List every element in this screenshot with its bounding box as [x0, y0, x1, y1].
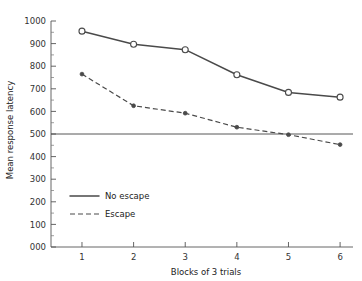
x-tick-label: 1	[79, 252, 84, 262]
x-axis-title: Blocks of 3 trials	[171, 267, 242, 277]
chart-figure: 0001002003004005006007008009001000 12345…	[0, 0, 362, 281]
chart-legend: No escapeEscape	[70, 191, 149, 219]
line-chart: 0001002003004005006007008009001000 12345…	[0, 0, 362, 281]
data-point-marker	[80, 72, 84, 76]
data-point-marker	[131, 41, 137, 47]
data-series	[79, 28, 343, 146]
series-line-no-escape	[82, 31, 340, 97]
x-axis-tick-labels: 123456	[79, 252, 343, 262]
x-tick-label: 4	[234, 252, 239, 262]
data-point-marker	[79, 28, 85, 34]
y-tick-label: 500	[30, 129, 46, 139]
data-point-marker	[183, 111, 187, 115]
data-point-marker	[337, 94, 343, 100]
x-tick-label: 2	[131, 252, 136, 262]
y-tick-label: 300	[30, 174, 46, 184]
y-axis-title: Mean response latency	[5, 81, 15, 179]
legend-label-escape: Escape	[105, 209, 135, 219]
x-tick-label: 3	[183, 252, 188, 262]
y-tick-label: 600	[30, 107, 46, 117]
data-point-marker	[285, 89, 291, 95]
data-point-marker	[235, 125, 239, 129]
legend-label-no-escape: No escape	[105, 191, 149, 201]
data-point-marker	[338, 143, 342, 147]
y-tick-label: 100	[30, 220, 46, 230]
y-tick-label: 800	[30, 61, 46, 71]
data-point-marker	[287, 133, 291, 137]
data-point-marker	[132, 104, 136, 108]
data-point-marker	[234, 72, 240, 78]
x-tick-label: 6	[337, 252, 342, 262]
y-tick-label: 1000	[24, 16, 46, 26]
y-tick-label: 700	[30, 84, 46, 94]
y-tick-label: 400	[30, 152, 46, 162]
data-point-marker	[182, 47, 188, 53]
y-tick-label: 900	[30, 39, 46, 49]
y-tick-label: 200	[30, 197, 46, 207]
x-tick-label: 5	[286, 252, 291, 262]
y-axis-tick-labels: 0001002003004005006007008009001000	[24, 16, 46, 252]
y-tick-label: 000	[30, 242, 46, 252]
